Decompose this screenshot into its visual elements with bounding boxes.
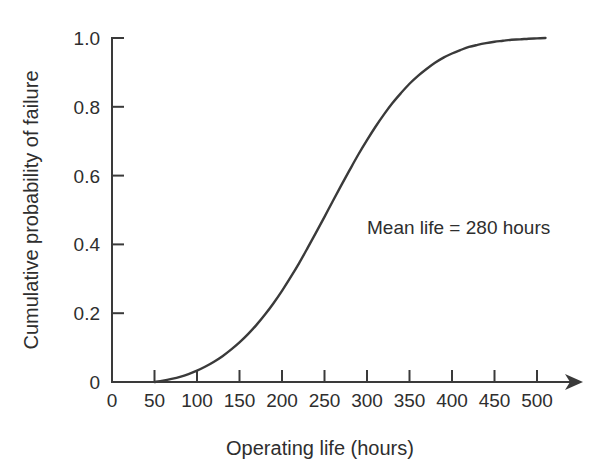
y-tick-label: 0.8	[74, 97, 100, 118]
y-tick-label: 0.4	[74, 234, 101, 255]
x-tick-label: 150	[224, 390, 256, 411]
cumulative-failure-probability-chart: 00.20.40.60.81.0 Cumulative probability …	[0, 0, 606, 473]
x-tick-label: 450	[479, 390, 511, 411]
x-tick-label: 500	[521, 390, 553, 411]
mean-life-annotation: Mean life = 280 hours	[367, 217, 550, 238]
annotation-group: Mean life = 280 hours	[367, 217, 550, 238]
y-tick-label: 0.2	[74, 303, 100, 324]
y-tick-label: 0	[89, 372, 100, 393]
x-tick-label: 250	[309, 390, 341, 411]
x-axis-title: Operating life (hours)	[226, 437, 414, 459]
x-tick-label: 350	[394, 390, 426, 411]
x-tick-label: 100	[181, 390, 213, 411]
y-tick-label: 0.6	[74, 166, 100, 187]
x-tick-label: 200	[266, 390, 298, 411]
x-tick-label: 300	[351, 390, 383, 411]
x-tick-label: 400	[436, 390, 468, 411]
x-tick-label: 0	[107, 390, 118, 411]
chart-page: 00.20.40.60.81.0 Cumulative probability …	[0, 0, 606, 473]
y-axis-title: Cumulative probability of failure	[20, 70, 42, 349]
x-tick-label: 50	[144, 390, 165, 411]
y-tick-label: 1.0	[74, 28, 100, 49]
